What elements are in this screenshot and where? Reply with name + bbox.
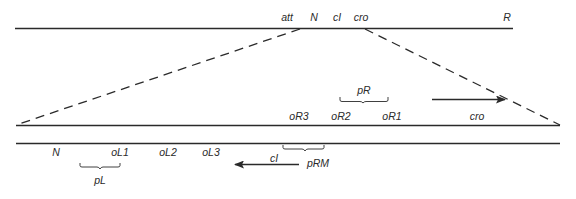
label-N-expanded: N <box>52 146 60 158</box>
expansion-dashed-left <box>16 29 300 125</box>
label-N-top: N <box>310 11 318 23</box>
label-oL1: oL1 <box>111 146 129 158</box>
label-oR2: oR2 <box>331 110 350 122</box>
label-cro-expanded: cro <box>470 110 485 122</box>
label-oR3: oR3 <box>289 110 308 122</box>
pR-brace <box>340 97 388 103</box>
lambda-operator-diagram <box>0 0 576 199</box>
label-oR1: oR1 <box>382 110 401 122</box>
label-oL3: oL3 <box>202 146 220 158</box>
label-cI-expanded: cI <box>270 152 278 164</box>
pL-brace <box>80 163 120 169</box>
label-att: att <box>281 11 293 23</box>
label-R: R <box>503 11 511 23</box>
label-pL: pL <box>94 174 106 186</box>
label-pR: pR <box>357 84 370 96</box>
label-cro-top: cro <box>354 11 369 23</box>
label-cI-top: cI <box>333 11 341 23</box>
pRM-brace <box>283 145 324 151</box>
label-pRM: pRM <box>307 157 329 169</box>
label-oL2: oL2 <box>159 146 177 158</box>
